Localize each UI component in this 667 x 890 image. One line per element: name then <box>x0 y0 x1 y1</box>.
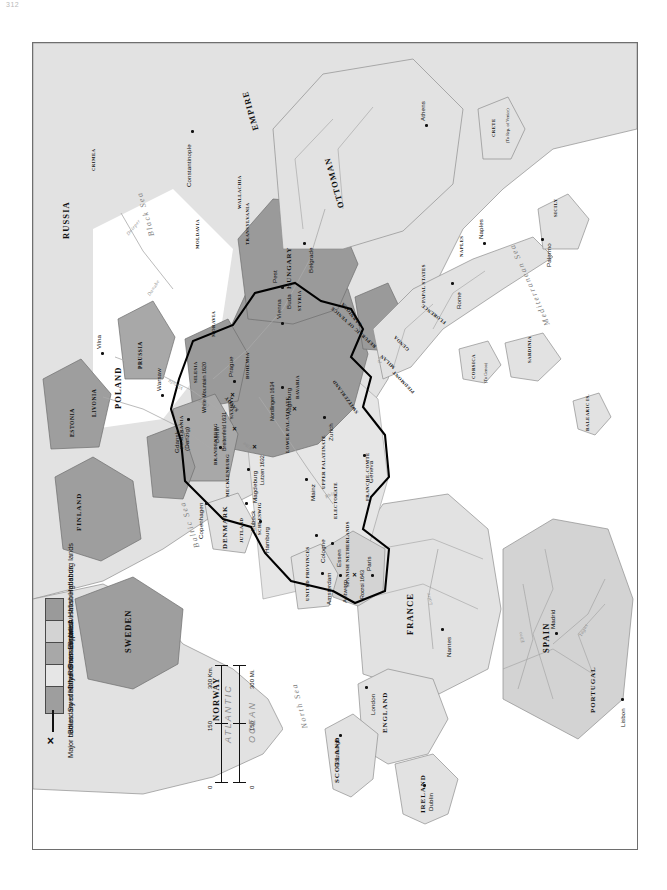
city-label-geneva: Geneva <box>367 461 374 483</box>
region-label-united-provinces: UNITED PROVINCES <box>305 546 310 601</box>
city-label-gdansk: Gdansk <box>173 431 180 453</box>
city-label-palermo: Palermo <box>545 243 552 267</box>
city-dot-essen <box>331 542 334 545</box>
battle-marker-rocroi: × <box>351 572 359 577</box>
region-label-mecklenburg: MECKLENBURG <box>225 454 230 497</box>
city-dot-athens <box>425 124 428 127</box>
city-dot-palermo <box>541 238 544 241</box>
city-label-copenhagen: Copenhagen <box>197 503 204 539</box>
city-label-amsterdam: Amsterdam <box>325 572 332 605</box>
city-dot-constantinople <box>191 130 194 133</box>
map-plate: .g { fill:#e2e2e2; stroke:#8e8e8e; strok… <box>32 42 638 850</box>
city-dot-lisbon <box>621 698 624 701</box>
region-label-moldavia: MOLDAVIA <box>195 219 200 249</box>
city-dot-buda <box>281 286 284 289</box>
scale-tick-mi-150 <box>233 723 246 724</box>
city-label-constantinople: Constantinople <box>185 144 192 187</box>
region-label-corsica: CORSICA <box>471 354 476 379</box>
city-dot-london <box>365 686 368 689</box>
city-label-edinburgh: Edinburgh <box>333 738 340 767</box>
battle-label-lutzen: Lutzen 1632 <box>259 455 265 485</box>
scale-label-mi-300: 300 Mi. <box>249 669 255 689</box>
scale-tick-km-0 <box>215 782 228 783</box>
city-dot-mainz <box>305 478 308 481</box>
city-dot-rome <box>451 282 454 285</box>
scale-label-km-150: 150 <box>207 721 213 731</box>
city-label-vilna: Vilna <box>95 335 102 349</box>
city-label-vienna: Vienna <box>275 299 282 319</box>
city-label-madrid: Madrid <box>549 609 556 629</box>
city-dot-edinburgh <box>339 734 342 737</box>
region-label-wallachia: WALLACHIA <box>237 175 242 209</box>
region-label-papal-states: PAPAL STATES <box>421 264 426 303</box>
region-label-electorate: ELECTORATE <box>333 482 338 519</box>
region-label-upper-palatinate: UPPER PALATINATE <box>321 435 326 489</box>
city-dot-antwerp <box>339 574 342 577</box>
region-label-sardinia: SARDINIA <box>527 336 532 363</box>
city-dot-dublin <box>423 784 426 787</box>
city-dot-hamburg <box>259 520 262 523</box>
region-label-schleswig: SCHLESWIG <box>257 502 262 535</box>
region-label-transylvania: TRANSYLVANIA <box>245 203 250 245</box>
city-label-nantes: Nantes <box>445 637 452 657</box>
country-label-denmark: DENMARK <box>221 506 229 549</box>
city-dot-amsterdam <box>321 572 324 575</box>
scale-tick-mi-300 <box>233 665 246 666</box>
region-label-jutland: JUTLAND <box>239 518 244 543</box>
region-label-spanish-netherlands: SPANISH NETHERLANDS <box>345 521 350 587</box>
city-label-belgrade: Belgrade <box>307 247 314 273</box>
city-label-london: London <box>369 694 376 715</box>
city-label-zurich: Zurich <box>327 423 334 441</box>
city-dot-madrid <box>555 632 558 635</box>
country-label-poland: POLAND <box>113 367 123 410</box>
region-note-crete: (To Rep. of Venice) <box>505 108 510 143</box>
region-label-bohemia: BOHEMIA <box>245 352 250 379</box>
city-label-dublin: Dublin <box>427 793 434 811</box>
city-label-naples: Naples <box>477 219 484 239</box>
region-label-crete: CRETE <box>491 118 496 137</box>
region-label-bavaria: BAVARIA <box>295 375 300 399</box>
battle-marker-breitenfeld: × <box>231 426 239 431</box>
city-label-danzig: (Danzig) <box>183 427 190 451</box>
city-dot-vilna <box>101 352 104 355</box>
city-label-magdeburg: Magdeburg <box>251 471 258 503</box>
city-label-lisbon: Lisbon <box>619 708 626 727</box>
city-dot-lubeck <box>245 502 248 505</box>
battle-label-breitenfeld: Breitenfeld 1631 <box>221 412 227 451</box>
city-label-rome: Rome <box>455 292 462 309</box>
scale-tick-km-300 <box>215 665 228 666</box>
region-label-naples: NAPLES <box>459 236 464 257</box>
city-label-hamburg: Hamburg <box>263 527 270 553</box>
map-scale-bar: 0 150 300 Km. 0 150 300 Mi. <box>193 655 313 835</box>
region-label-moravia: MORAVIA <box>211 311 216 337</box>
city-dot-magdeburg <box>247 468 250 471</box>
city-label-warsaw: Warsaw <box>155 368 162 391</box>
map-page: 312 .g { fill:#e2e2e2; stroke:#8e8e8e; s… <box>0 0 667 890</box>
city-label-prague: Prague <box>227 356 234 377</box>
city-dot-warsaw <box>161 394 164 397</box>
region-label-estonia: ESTONIA <box>69 408 75 437</box>
city-dot-nantes <box>441 628 444 631</box>
legend-label-major-battles: Major battles <box>66 716 75 758</box>
country-label-portugal: PORTUGAL <box>589 666 597 713</box>
region-label-sicily: SICILY <box>553 199 558 218</box>
ocean-label-atlantic: ATLANTIC <box>223 684 233 743</box>
city-dot-zurich <box>323 416 326 419</box>
city-label-antwerp: Antwerp <box>341 580 348 603</box>
scale-label-km-300: 300 Km. <box>207 667 213 689</box>
battle-marker-nordlingen: × <box>291 406 299 411</box>
country-label-ireland: IRELAND <box>419 774 427 813</box>
legend-symbol-hre-boundary-line <box>52 710 54 732</box>
country-label-finland: FINLAND <box>75 493 83 531</box>
city-dot-prague <box>233 380 236 383</box>
battle-label-rocroi: Rocroi 1643 <box>359 570 365 599</box>
city-label-berlin: Berlin <box>213 427 220 443</box>
country-label-russia: RUSSIA <box>61 201 71 239</box>
country-label-france: FRANCE <box>405 593 415 635</box>
city-dot-geneva <box>363 454 366 457</box>
city-label-essen: Essen <box>335 549 342 567</box>
city-label-pest: Pest <box>271 270 278 283</box>
region-label-crimea: CRIMEA <box>91 149 96 171</box>
city-dot-gdansk <box>187 418 190 421</box>
legend-symbol-battle-x-icon: × <box>47 734 54 748</box>
